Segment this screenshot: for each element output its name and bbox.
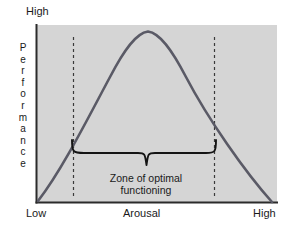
zone-caption-line-2: functioning xyxy=(86,184,206,196)
x-axis-title: Arousal xyxy=(123,207,160,219)
x-axis-right-tick-label: High xyxy=(253,207,276,219)
zone-caption: Zone of optimal functioning xyxy=(86,172,206,196)
yerkes-dodson-chart-figure: High P e r f o r m a n c e Zone of optim… xyxy=(0,0,293,235)
x-axis-left-tick-label: Low xyxy=(26,207,46,219)
zone-caption-line-1: Zone of optimal xyxy=(86,172,206,184)
plot-area xyxy=(0,0,293,235)
